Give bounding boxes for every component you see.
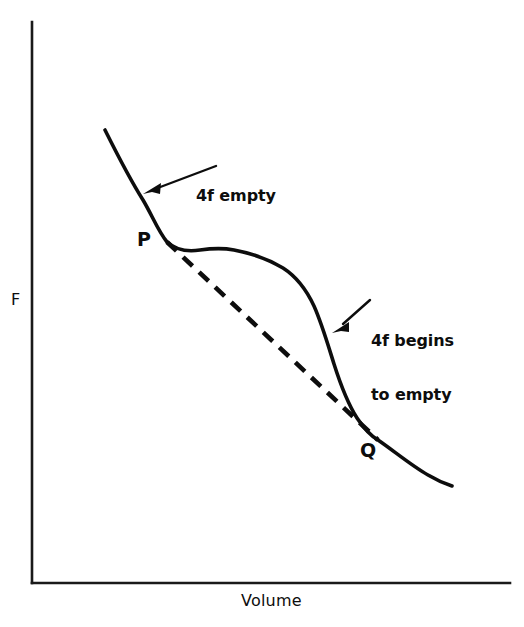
annotation-arrow-4f-begins-to-empty [332,300,370,333]
point-label-q: Q [360,440,376,461]
tie-line-dashed [167,242,378,440]
y-axis-label: F [11,291,20,309]
annotation-label-4f-empty: 4f empty [196,151,276,241]
annotation-line: to empty [371,386,454,404]
x-axis-label: Volume [241,592,302,610]
annotation-line: 4f empty [196,187,276,205]
annotation-label-4f-begins-to-empty: 4f begins to empty [371,296,454,439]
figure-root: F Volume P Q 4f empty 4f begins to empty [0,0,524,627]
annotation-line: 4f begins [371,332,454,350]
point-label-p: P [137,229,151,250]
